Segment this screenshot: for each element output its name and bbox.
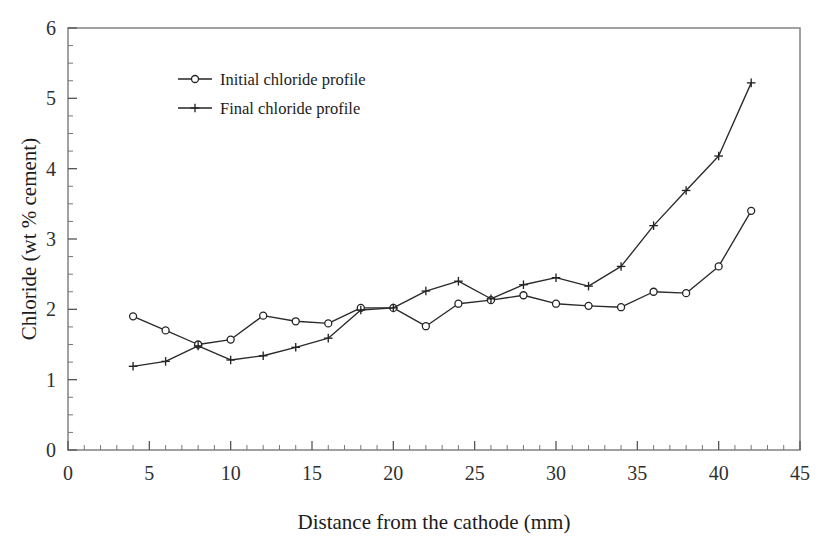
x-tick-label: 45 [790, 462, 810, 484]
data-point-marker [455, 300, 462, 307]
x-tick-label: 5 [144, 462, 154, 484]
x-tick-label: 0 [63, 462, 73, 484]
x-axis-title: Distance from the cathode (mm) [298, 510, 571, 534]
data-point-marker [748, 207, 755, 214]
y-tick-label: 2 [46, 298, 56, 320]
y-tick-label: 0 [46, 439, 56, 461]
data-point-marker [260, 312, 267, 319]
data-point-marker [325, 320, 332, 327]
y-tick-label: 3 [46, 228, 56, 250]
data-point-marker [292, 318, 299, 325]
data-point-marker [130, 313, 137, 320]
x-tick-label: 15 [302, 462, 322, 484]
data-point-marker [227, 336, 234, 343]
data-point-marker [162, 327, 169, 334]
data-point-marker [553, 300, 560, 307]
y-tick-label: 4 [46, 158, 56, 180]
x-tick-label: 35 [627, 462, 647, 484]
x-tick-label: 30 [546, 462, 566, 484]
data-point-marker [520, 292, 527, 299]
data-point-marker [618, 304, 625, 311]
y-tick-label: 1 [46, 369, 56, 391]
x-tick-label: 25 [465, 462, 485, 484]
data-point-marker [650, 288, 657, 295]
chart-canvas: 051015202530354045 0123456 Initial chlor… [0, 0, 837, 545]
y-axis-title: Chloride (wt % cement) [17, 138, 41, 340]
data-point-marker [683, 290, 690, 297]
legend-label: Initial chloride profile [220, 70, 366, 89]
y-tick-label: 6 [46, 17, 56, 39]
y-tick-label: 5 [46, 87, 56, 109]
data-point-marker [422, 323, 429, 330]
chart-figure: 051015202530354045 0123456 Initial chlor… [0, 0, 837, 545]
legend-marker-open-circle [192, 76, 199, 83]
x-tick-label: 40 [709, 462, 729, 484]
data-point-marker [715, 263, 722, 270]
legend-label: Final chloride profile [220, 99, 360, 118]
x-tick-label: 20 [383, 462, 403, 484]
x-tick-label: 10 [221, 462, 241, 484]
data-point-marker [585, 302, 592, 309]
